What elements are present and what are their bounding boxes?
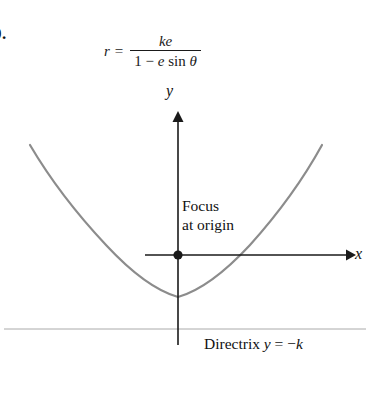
y-axis-arrowhead [173, 111, 184, 122]
directrix-annotation-equals: = − [271, 335, 296, 352]
focus-point-dot [173, 250, 182, 259]
focus-annotation-line-2: at origin [182, 215, 234, 234]
polar-conic-figure: 0. r = ke 1 − e sin θ y x Focus at origi… [0, 0, 370, 393]
focus-annotation: Focus at origin [182, 196, 234, 235]
directrix-annotation: Directrix y = −k [204, 334, 303, 353]
y-axis-label: y [166, 82, 173, 100]
x-axis-label: x [355, 245, 362, 263]
directrix-annotation-text: Directrix [204, 335, 264, 352]
directrix-annotation-variable: y [264, 335, 271, 352]
parabola-curve [30, 145, 322, 297]
directrix-annotation-k: k [296, 335, 303, 352]
focus-annotation-line-1: Focus [182, 196, 234, 215]
